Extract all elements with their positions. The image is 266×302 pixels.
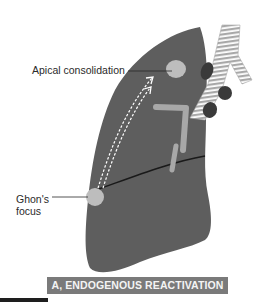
figure-caption: A, ENDOGENOUS REACTIVATION bbox=[47, 277, 228, 294]
lung-diagram bbox=[0, 0, 266, 302]
ghon-focus-lesion bbox=[86, 188, 104, 206]
apical-consolidation-label: Apical consolidation bbox=[32, 64, 125, 76]
corner-bar bbox=[0, 298, 48, 302]
lymph-node bbox=[218, 86, 232, 100]
ghon-focus-label: Ghon's focus bbox=[16, 193, 56, 217]
apical-consolidation-lesion bbox=[166, 60, 186, 78]
